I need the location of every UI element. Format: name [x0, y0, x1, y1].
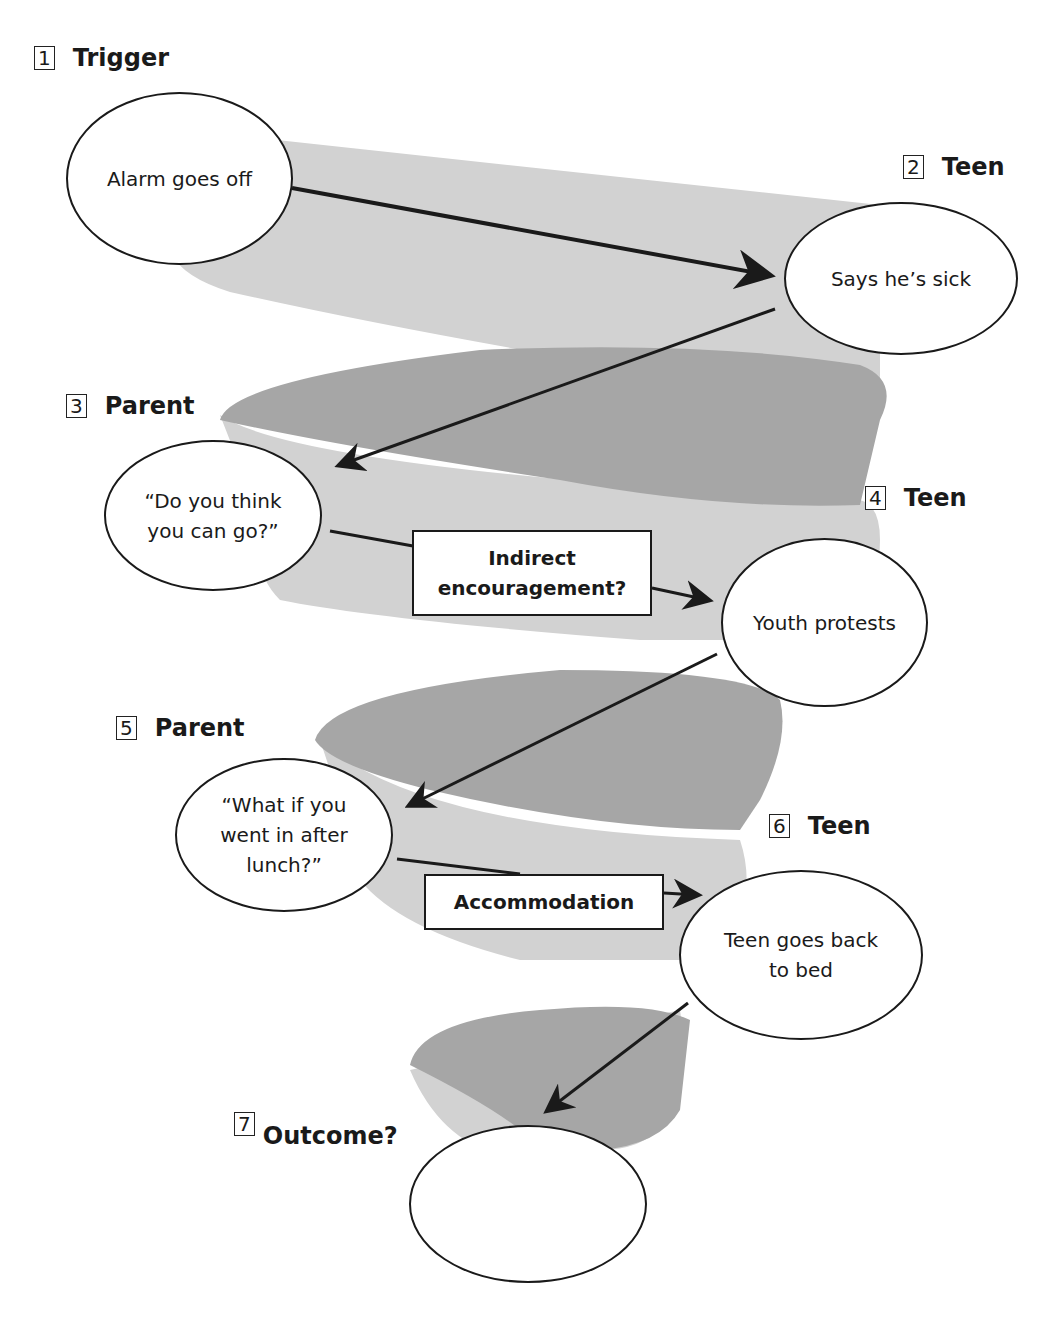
step-role: Teen [942, 153, 1005, 181]
node-text-line: Teen goes back [724, 925, 878, 955]
node-alarm-goes-off: Alarm goes off [66, 92, 293, 265]
node-text: Youth protests [753, 608, 896, 638]
step-1-header: 1 Trigger [34, 44, 169, 72]
step-number: 7 [234, 1112, 255, 1136]
step-4-header: 4 Teen [865, 484, 967, 512]
node-do-you-think: “Do you think you can go?” [104, 440, 322, 591]
step-role: Outcome? [263, 1122, 398, 1150]
step-6-header: 6 Teen [769, 812, 871, 840]
step-number: 6 [769, 814, 790, 838]
step-7-header: 7 Outcome? [234, 1112, 398, 1150]
arrow-label-to-6 [664, 893, 697, 895]
node-text-line: to bed [769, 955, 833, 985]
node-text-line: “What if you [222, 790, 347, 820]
step-number: 4 [865, 486, 886, 510]
node-outcome-empty [409, 1125, 647, 1283]
node-text-line: “Do you think [144, 486, 281, 516]
step-3-header: 3 Parent [66, 392, 195, 420]
step-role: Parent [105, 392, 195, 420]
step-role: Trigger [73, 44, 169, 72]
node-text-line: you can go?” [147, 516, 278, 546]
label-text-line: encouragement? [438, 573, 627, 603]
node-text-line: lunch?” [246, 850, 322, 880]
label-indirect-encouragement: Indirect encouragement? [412, 530, 652, 616]
step-role: Teen [904, 484, 967, 512]
node-what-if: “What if you went in after lunch?” [175, 758, 393, 912]
node-teen-goes-back-to-bed: Teen goes back to bed [679, 870, 923, 1040]
node-text-line: went in after [220, 820, 347, 850]
step-role: Teen [808, 812, 871, 840]
node-says-hes-sick: Says he’s sick [784, 202, 1018, 355]
node-text: Alarm goes off [107, 164, 252, 194]
step-number: 2 [903, 155, 924, 179]
label-text-line: Indirect [488, 543, 576, 573]
node-text: Says he’s sick [831, 264, 971, 294]
step-number: 5 [116, 716, 137, 740]
label-accommodation: Accommodation [424, 874, 664, 930]
step-5-header: 5 Parent [116, 714, 245, 742]
step-number: 1 [34, 46, 55, 70]
label-text: Accommodation [454, 887, 635, 917]
node-youth-protests: Youth protests [721, 538, 928, 707]
step-number: 3 [66, 394, 87, 418]
step-role: Parent [155, 714, 245, 742]
step-2-header: 2 Teen [903, 153, 1005, 181]
